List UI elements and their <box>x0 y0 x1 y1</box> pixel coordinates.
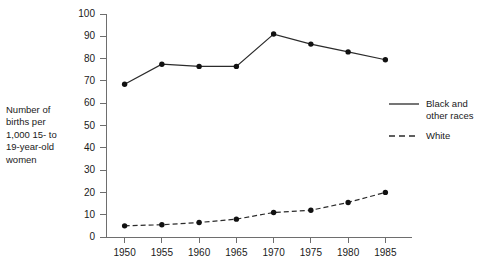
x-tick-label: 1965 <box>225 247 248 258</box>
data-point-marker <box>159 61 164 66</box>
data-point-marker <box>345 49 350 54</box>
data-series-group <box>122 31 388 228</box>
data-point-marker <box>234 64 239 69</box>
y-axis-ticks: 0102030405060708090100 <box>78 8 106 242</box>
data-point-marker <box>234 216 239 221</box>
x-tick-label: 1970 <box>263 247 286 258</box>
legend-swatch-dashed-line <box>389 130 419 141</box>
x-tick-label: 1985 <box>374 247 397 258</box>
series-line-black-and-other-races <box>125 34 386 84</box>
y-tick-label: 90 <box>84 30 96 41</box>
y-tick-label: 50 <box>84 120 96 131</box>
y-tick-label: 80 <box>84 53 96 64</box>
x-tick-label: 1960 <box>188 247 211 258</box>
x-tick-label: 1950 <box>114 247 137 258</box>
y-tick-label: 100 <box>78 8 95 19</box>
x-tick-label: 1955 <box>151 247 174 258</box>
legend-label-white: White <box>426 130 450 142</box>
series-line-white <box>125 192 386 225</box>
data-point-marker <box>159 222 164 227</box>
data-point-marker <box>345 200 350 205</box>
data-point-marker <box>308 208 313 213</box>
y-tick-label: 40 <box>84 142 96 153</box>
y-tick-label: 10 <box>84 209 96 220</box>
legend-item-white: White <box>389 130 483 142</box>
x-tick-label: 1980 <box>337 247 360 258</box>
x-tick-label: 1975 <box>300 247 323 258</box>
line-chart-figure: Number of births per 1,000 15- to 19-yea… <box>0 0 483 274</box>
y-tick-label: 0 <box>89 231 95 242</box>
data-point-marker <box>383 190 388 195</box>
data-point-marker <box>196 64 201 69</box>
data-point-marker <box>271 31 276 36</box>
legend-item-black-and-other-races: Black and other races <box>389 98 483 121</box>
data-point-marker <box>122 223 127 228</box>
y-tick-label: 70 <box>84 75 96 86</box>
x-axis-ticks: 19501955196019651970197519801985 <box>114 237 397 258</box>
y-tick-label: 20 <box>84 187 96 198</box>
data-point-marker <box>271 210 276 215</box>
chart-legend: Black and other races White <box>389 98 483 151</box>
legend-swatch-solid-line <box>389 98 419 109</box>
data-point-marker <box>383 57 388 62</box>
y-tick-label: 30 <box>84 164 96 175</box>
data-point-marker <box>308 41 313 46</box>
legend-label-black-and-other-races: Black and other races <box>426 98 474 121</box>
data-point-marker <box>122 82 127 87</box>
y-tick-label: 60 <box>84 97 96 108</box>
data-point-marker <box>196 220 201 225</box>
